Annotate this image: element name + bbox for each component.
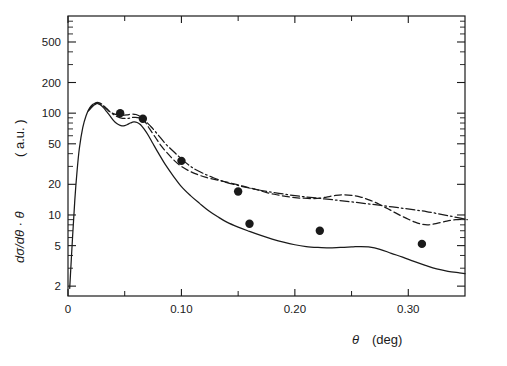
y-tick-label: 10: [48, 209, 61, 221]
x-tick-label: 0: [65, 303, 71, 315]
x-axis-unit: (deg): [372, 332, 402, 347]
data-point-marker: [177, 157, 185, 165]
y-tick-label: 200: [42, 77, 61, 89]
axes-frame: [68, 16, 465, 296]
y-tick-label: 5: [55, 240, 61, 252]
x-axis-tick-labels: 00.100.200.30: [65, 303, 420, 315]
x-axis-ticks: [68, 16, 408, 296]
data-point-marker: [316, 227, 324, 235]
x-tick-label: 0.30: [397, 303, 419, 315]
y-axis-ticks: [68, 21, 465, 286]
data-point-group: [116, 109, 426, 248]
y-tick-label: 20: [48, 178, 61, 190]
figure-root: 00.100.200.30 25102050100200500 θ (deg) …: [0, 0, 507, 366]
data-point-marker: [139, 115, 147, 123]
data-point-marker: [116, 109, 124, 117]
y-axis-unit: ( a.u. ): [12, 119, 27, 157]
y-axis-tick-labels: 25102050100200500: [42, 36, 61, 292]
curve-group: [70, 102, 468, 288]
data-point-marker: [418, 240, 426, 248]
y-tick-label: 2: [55, 280, 61, 292]
data-point-marker: [245, 220, 253, 228]
x-tick-label: 0.10: [170, 303, 192, 315]
data-point-marker: [234, 187, 242, 195]
y-tick-label: 500: [42, 36, 61, 48]
y-axis-symbol: dσ/dθ · θ: [12, 211, 27, 263]
y-tick-label: 50: [48, 138, 61, 150]
y-axis-title: dσ/dθ · θ ( a.u. ): [12, 119, 27, 263]
x-axis-symbol: θ: [352, 332, 359, 347]
scattering-cross-section-plot: 00.100.200.30 25102050100200500 θ (deg) …: [0, 0, 507, 366]
x-tick-label: 0.20: [284, 303, 306, 315]
y-tick-label: 100: [42, 107, 61, 119]
x-axis-title: θ (deg): [352, 332, 402, 347]
curve-solid-curve: [70, 103, 465, 288]
